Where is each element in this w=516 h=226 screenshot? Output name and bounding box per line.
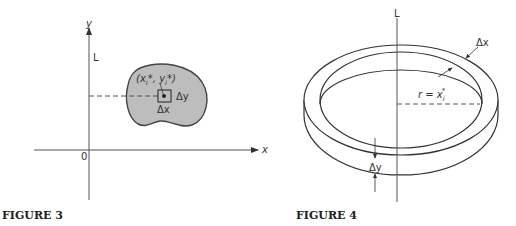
sample-point bbox=[162, 94, 166, 98]
figures-canvas: y x 0 L (xi*, yi*) Δy Δx FIGURE 3 L r = … bbox=[0, 0, 516, 226]
figure-4-caption: FIGURE 4 bbox=[296, 209, 357, 222]
line-label-L: L bbox=[93, 52, 99, 63]
line-label-L: L bbox=[394, 8, 400, 19]
figure-3-caption: FIGURE 3 bbox=[2, 209, 63, 222]
delta-x-arrow-outer bbox=[466, 47, 478, 58]
ring-inner-bottom-ellipse bbox=[320, 52, 482, 148]
x-axis-label: x bbox=[261, 144, 268, 155]
delta-x-label: Δx bbox=[476, 37, 489, 48]
delta-x-label: Δx bbox=[157, 104, 170, 115]
delta-y-label: Δy bbox=[176, 91, 189, 102]
delta-y-label: Δy bbox=[369, 162, 382, 173]
y-axis-label: y bbox=[85, 18, 93, 29]
origin-label: 0 bbox=[81, 151, 87, 162]
figure-4: L r = xi* Δx Δy FIGURE 4 bbox=[296, 8, 498, 222]
figure-3: y x 0 L (xi*, yi*) Δy Δx FIGURE 3 bbox=[2, 18, 268, 222]
